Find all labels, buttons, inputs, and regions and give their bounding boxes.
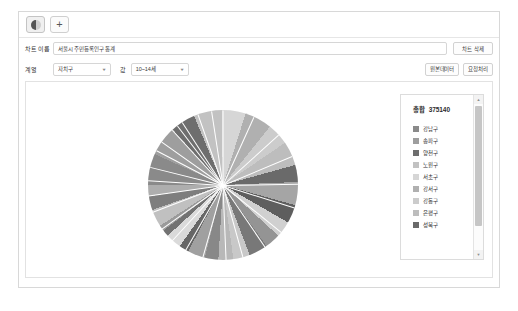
delete-chart-button[interactable]: 차트 삭제 (453, 42, 493, 55)
legend-item-label: 서초구 (423, 173, 438, 181)
legend-item-label: 은평구 (423, 209, 438, 217)
legend-item[interactable]: 송파구 (413, 135, 473, 147)
category-label: 계열 (25, 65, 53, 74)
request-process-button[interactable]: 요청처리 (463, 63, 493, 76)
category-select-value: 자치구 (58, 65, 73, 73)
legend-item-label: 노원구 (423, 161, 438, 169)
value-label: 값 (120, 65, 126, 74)
add-tab-button[interactable]: + (50, 16, 69, 33)
category-select[interactable]: 자치구 ▼ (53, 63, 111, 76)
pie-chart-icon (31, 20, 41, 30)
legend-item[interactable]: 양천구 (413, 147, 473, 159)
legend-item[interactable]: 강동구 (413, 195, 473, 207)
legend-total: 총합375140 (413, 104, 473, 114)
legend-item[interactable]: 은평구 (413, 207, 473, 219)
chart-name-input[interactable]: 서울시 주민등록인구 통계 (53, 42, 447, 55)
value-select-value: 10~14세 (136, 65, 156, 73)
scrollbar-thumb[interactable] (475, 106, 482, 226)
legend-item[interactable]: 강서구 (413, 183, 473, 195)
legend-panel: 총합375140 강남구송파구양천구노원구서초구강서구강동구은평구성북구 ▲ ▼ (400, 94, 484, 260)
plus-icon: + (56, 19, 62, 30)
legend-item[interactable]: 강남구 (413, 123, 473, 135)
legend-color-swatch (413, 138, 419, 144)
scroll-up-icon[interactable]: ▲ (474, 95, 483, 104)
legend-scrollbar[interactable]: ▲ ▼ (473, 95, 483, 259)
legend-color-swatch (413, 150, 419, 156)
legend-item[interactable]: 노원구 (413, 159, 473, 171)
legend-item-label: 강남구 (423, 125, 438, 133)
chart-name-row: 차트 이름 서울시 주민등록인구 통계 차트 삭제 (19, 39, 499, 58)
legend-item[interactable]: 성북구 (413, 219, 473, 231)
pie-slice-separator (223, 111, 224, 186)
legend-item-label: 강동구 (423, 197, 438, 205)
legend-item-label: 강서구 (423, 185, 438, 193)
legend-color-swatch (413, 198, 419, 204)
legend-item-label: 양천구 (423, 149, 438, 157)
pie-chart[interactable] (148, 110, 298, 260)
legend-total-value: 375140 (429, 106, 450, 113)
legend-color-swatch (413, 162, 419, 168)
legend-list: 총합375140 강남구송파구양천구노원구서초구강서구강동구은평구성북구 (401, 95, 473, 259)
legend-total-label: 총합 (413, 106, 425, 113)
chevron-down-icon: ▼ (179, 67, 184, 72)
chart-name-label: 차트 이름 (25, 44, 53, 53)
source-data-button[interactable]: 원본데이터 (425, 63, 459, 76)
legend-color-swatch (413, 174, 419, 180)
chart-editor-card: + 차트 이름 서울시 주민등록인구 통계 차트 삭제 계열 자치구 ▼ 값 1… (18, 11, 500, 288)
chevron-down-icon: ▼ (102, 67, 107, 72)
legend-item-label: 성북구 (423, 221, 438, 229)
chart-controls-row: 계열 자치구 ▼ 값 10~14세 ▼ 원본데이터 요청처리 (19, 58, 499, 80)
chart-panel: 총합375140 강남구송파구양천구노원구서초구강서구강동구은평구성북구 ▲ ▼ (25, 81, 493, 278)
tab-strip: + (19, 12, 499, 38)
scroll-down-icon[interactable]: ▼ (474, 250, 483, 259)
legend-item-label: 송파구 (423, 137, 438, 145)
app-root: + 차트 이름 서울시 주민등록인구 통계 차트 삭제 계열 자치구 ▼ 값 1… (0, 0, 518, 311)
legend-color-swatch (413, 186, 419, 192)
action-button-group: 원본데이터 요청처리 (425, 63, 493, 76)
legend-item[interactable]: 서초구 (413, 171, 473, 183)
value-select[interactable]: 10~14세 ▼ (131, 63, 189, 76)
legend-color-swatch (413, 126, 419, 132)
legend-items: 강남구송파구양천구노원구서초구강서구강동구은평구성북구 (413, 123, 473, 231)
legend-color-swatch (413, 222, 419, 228)
tab-chart-pie[interactable] (26, 16, 45, 33)
legend-color-swatch (413, 210, 419, 216)
